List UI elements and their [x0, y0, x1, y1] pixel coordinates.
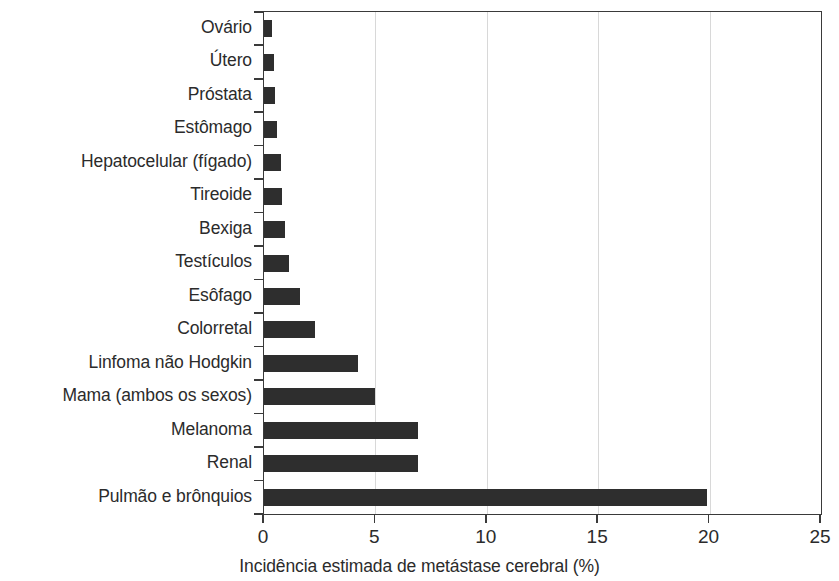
category-label-10: Colorretal — [0, 320, 252, 338]
gridline — [598, 12, 599, 514]
y-axis-tick — [254, 480, 263, 482]
x-axis-tick-label-0: 0 — [233, 526, 293, 548]
bar — [264, 54, 274, 71]
category-label-4: Estômago — [0, 119, 252, 137]
y-axis-tick — [254, 379, 263, 381]
category-label-9: Esôfago — [0, 287, 252, 305]
y-axis-tick — [254, 145, 263, 147]
x-axis-tick-label-10: 10 — [456, 526, 516, 548]
bar — [264, 288, 300, 305]
category-label-13: Melanoma — [0, 421, 252, 439]
bar — [264, 221, 285, 238]
y-axis-tick — [254, 245, 263, 247]
category-label-6: Tireoide — [0, 186, 252, 204]
bar — [264, 87, 275, 104]
bar — [264, 121, 277, 138]
y-axis-tick — [254, 312, 263, 314]
category-label-8: Testículos — [0, 253, 252, 271]
category-label-7: Bexiga — [0, 220, 252, 238]
y-axis-tick — [254, 111, 263, 113]
category-label-5: Hepatocelular (fígado) — [0, 153, 252, 171]
x-axis-tick — [485, 514, 487, 523]
bar — [264, 255, 289, 272]
x-axis-tick-label-25: 25 — [790, 526, 839, 548]
x-axis-tick — [374, 514, 376, 523]
bar — [264, 188, 282, 205]
category-label-14: Renal — [0, 454, 252, 472]
x-axis-tick — [596, 514, 598, 523]
x-axis-tick-label-15: 15 — [567, 526, 627, 548]
bar — [264, 355, 358, 372]
x-axis-tick — [708, 514, 710, 523]
bar — [264, 489, 707, 506]
plot-area — [263, 11, 822, 515]
x-axis-tick — [819, 514, 821, 523]
y-axis-tick — [254, 11, 263, 13]
y-axis-tick — [254, 212, 263, 214]
y-axis-tick — [254, 346, 263, 348]
bar — [264, 455, 418, 472]
x-axis-tick-label-5: 5 — [344, 526, 404, 548]
bar — [264, 388, 375, 405]
category-label-11: Linfoma não Hodgkin — [0, 354, 252, 372]
gridline — [710, 12, 711, 514]
x-axis-tick-label-20: 20 — [679, 526, 739, 548]
gridline — [487, 12, 488, 514]
category-label-2: Útero — [0, 52, 252, 70]
category-label-12: Mama (ambos os sexos) — [0, 387, 252, 405]
x-axis-tick — [262, 514, 264, 523]
x-axis-title: Incidência estimada de metástase cerebra… — [0, 556, 839, 576]
bar-chart-figure: OvárioÚteroPróstataEstômagoHepatocelular… — [0, 0, 839, 581]
y-axis-tick — [254, 44, 263, 46]
bar — [264, 422, 418, 439]
y-axis-tick — [254, 178, 263, 180]
category-label-15: Pulmão e brônquios — [0, 488, 252, 506]
bar — [264, 154, 281, 171]
y-axis-tick — [254, 279, 263, 281]
y-axis-tick — [254, 78, 263, 80]
category-label-3: Próstata — [0, 86, 252, 104]
bar — [264, 20, 272, 37]
bar — [264, 321, 315, 338]
category-axis-labels: OvárioÚteroPróstataEstômagoHepatocelular… — [0, 11, 252, 513]
category-label-1: Ovário — [0, 19, 252, 37]
y-axis-tick — [254, 446, 263, 448]
y-axis-tick — [254, 413, 263, 415]
